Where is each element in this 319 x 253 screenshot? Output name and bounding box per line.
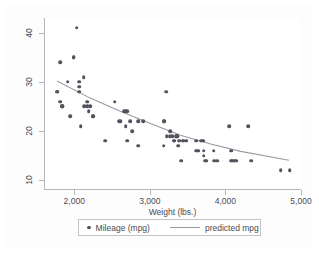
- data-point: [197, 149, 201, 153]
- y-axis-tick-label: 10: [22, 173, 36, 187]
- data-point: [229, 149, 233, 153]
- line-marker-icon: [170, 227, 200, 228]
- data-point: [250, 159, 254, 163]
- data-point: [228, 124, 232, 128]
- data-point: [92, 114, 96, 118]
- data-point: [185, 139, 189, 143]
- data-point: [247, 124, 251, 128]
- x-axis-title: Weight (lbs.): [44, 207, 301, 217]
- x-axis-tick: [150, 190, 151, 195]
- data-point: [204, 159, 208, 163]
- x-axis-tick: [301, 190, 302, 195]
- data-point: [126, 139, 130, 143]
- data-point: [113, 100, 117, 104]
- data-point: [61, 105, 65, 109]
- data-point: [126, 110, 130, 114]
- chart-legend: Mileage (mpg) predicted mpg: [78, 219, 261, 236]
- data-point: [77, 85, 81, 89]
- data-point: [169, 129, 173, 133]
- data-point: [162, 144, 166, 148]
- data-point: [212, 149, 216, 153]
- data-point: [194, 139, 198, 143]
- data-point: [172, 139, 176, 143]
- data-point: [119, 119, 123, 123]
- data-point: [129, 119, 133, 123]
- data-point: [130, 129, 134, 133]
- data-point: [175, 134, 179, 138]
- data-point: [77, 90, 81, 94]
- x-axis-tick: [225, 190, 226, 195]
- graph-region: 10203040 2,0003,0004,0005,000 Weight (lb…: [6, 4, 313, 249]
- y-axis-tick-label: 30: [22, 75, 36, 89]
- data-point: [89, 105, 93, 109]
- x-axis-tick-label: 5,000: [290, 196, 311, 206]
- data-point: [136, 119, 140, 123]
- data-point: [288, 169, 292, 173]
- legend-entry-predicted: predicted mpg: [170, 220, 259, 235]
- data-point: [179, 159, 183, 163]
- data-point: [77, 80, 81, 84]
- x-axis-tick-label: 3,000: [139, 196, 160, 206]
- data-point: [124, 124, 128, 128]
- data-point: [201, 139, 205, 143]
- data-point: [66, 80, 70, 84]
- data-point: [68, 114, 72, 118]
- legend-label-predicted: predicted mpg: [205, 223, 259, 233]
- data-point: [176, 144, 180, 148]
- data-point: [104, 139, 108, 143]
- data-point: [55, 90, 59, 94]
- data-point: [136, 144, 140, 148]
- data-point: [58, 60, 62, 64]
- data-point: [82, 75, 86, 79]
- data-point: [86, 100, 90, 104]
- x-axis-tick-label: 2,000: [64, 196, 85, 206]
- y-axis-tick-label: 20: [22, 124, 36, 138]
- data-point: [279, 169, 283, 173]
- data-point: [58, 100, 62, 104]
- data-point: [164, 90, 168, 94]
- point-marker-icon: [87, 226, 91, 230]
- data-point: [163, 119, 167, 123]
- data-point: [141, 119, 145, 123]
- x-axis-tick-label: 4,000: [215, 196, 236, 206]
- chart-figure: 10203040 2,0003,0004,0005,000 Weight (lb…: [0, 0, 319, 253]
- data-point: [75, 26, 79, 30]
- mileage-scatter-points: [45, 18, 301, 189]
- data-point: [202, 149, 206, 153]
- legend-entry-mileage: Mileage (mpg): [87, 220, 150, 235]
- data-point: [79, 124, 83, 128]
- data-point: [234, 159, 238, 163]
- plot-area: [44, 18, 301, 190]
- y-axis-tick-label: 40: [22, 26, 36, 40]
- data-point: [72, 56, 76, 60]
- data-point: [216, 159, 220, 163]
- data-point: [202, 154, 206, 158]
- x-axis-tick: [74, 190, 75, 195]
- data-point: [87, 110, 91, 114]
- legend-label-mileage: Mileage (mpg): [96, 223, 150, 233]
